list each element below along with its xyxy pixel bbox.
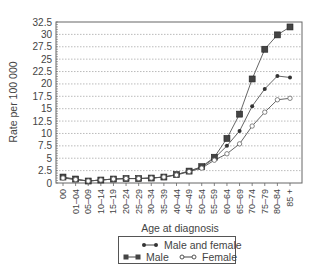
- svg-text:27.5: 27.5: [33, 41, 53, 52]
- svg-text:25: 25: [41, 54, 53, 65]
- legend-item-female: Female: [179, 251, 237, 263]
- svg-text:60–64: 60–64: [222, 189, 232, 214]
- diamond-marker-icon: [179, 253, 197, 261]
- svg-text:22.5: 22.5: [33, 66, 53, 77]
- legend-item-male-and-female: Male and female: [141, 239, 242, 251]
- x-axis-ticks: 0001–0405–0910–1415–1920–2425–2930–3435–…: [58, 183, 295, 214]
- line-chart: 02.557.51012.51517.52022.52527.53032.5 0…: [0, 0, 310, 236]
- svg-text:85 +: 85 +: [285, 189, 295, 207]
- svg-text:70–74: 70–74: [247, 189, 257, 214]
- svg-text:17.5: 17.5: [33, 91, 53, 102]
- y-axis-ticks: 02.557.51012.51517.52022.52527.53032.5: [33, 17, 58, 189]
- svg-text:50–54: 50–54: [197, 189, 207, 214]
- svg-text:00: 00: [58, 189, 68, 199]
- x-axis-title: Age at diagnosis: [141, 222, 219, 234]
- svg-text:40–44: 40–44: [172, 189, 182, 214]
- svg-text:20: 20: [41, 78, 53, 89]
- svg-text:20–24: 20–24: [121, 189, 131, 214]
- svg-text:7.5: 7.5: [38, 140, 52, 151]
- svg-text:32.5: 32.5: [33, 17, 53, 28]
- grid-lines: [56, 34, 302, 170]
- svg-text:01–04: 01–04: [71, 189, 81, 214]
- svg-text:15–19: 15–19: [108, 189, 118, 214]
- legend-item-male: Male: [123, 251, 169, 263]
- svg-text:10–14: 10–14: [96, 189, 106, 214]
- legend-label: Female: [202, 251, 237, 263]
- svg-text:35–39: 35–39: [159, 189, 169, 214]
- dot-marker-icon: [141, 241, 159, 249]
- svg-text:30–34: 30–34: [146, 189, 156, 214]
- svg-text:55–59: 55–59: [209, 189, 219, 214]
- svg-text:80–84: 80–84: [272, 189, 282, 214]
- square-marker-icon: [123, 253, 141, 261]
- y-axis-title: Rate per 100 000: [7, 61, 19, 142]
- svg-text:05–09: 05–09: [83, 189, 93, 214]
- svg-text:12.5: 12.5: [33, 116, 53, 127]
- svg-text:10: 10: [41, 128, 53, 139]
- svg-text:65–69: 65–69: [235, 189, 245, 214]
- legend-label: Male: [146, 251, 169, 263]
- svg-text:15: 15: [41, 103, 53, 114]
- svg-text:5: 5: [46, 153, 52, 164]
- svg-text:30: 30: [41, 29, 53, 40]
- legend: Male and female Male Female: [118, 236, 236, 264]
- data-series: [60, 24, 293, 184]
- svg-text:2.5: 2.5: [38, 165, 52, 176]
- svg-text:75–79: 75–79: [260, 189, 270, 214]
- svg-text:45–49: 45–49: [184, 189, 194, 214]
- svg-text:25–29: 25–29: [134, 189, 144, 214]
- svg-text:0: 0: [46, 178, 52, 189]
- legend-label: Male and female: [164, 239, 242, 251]
